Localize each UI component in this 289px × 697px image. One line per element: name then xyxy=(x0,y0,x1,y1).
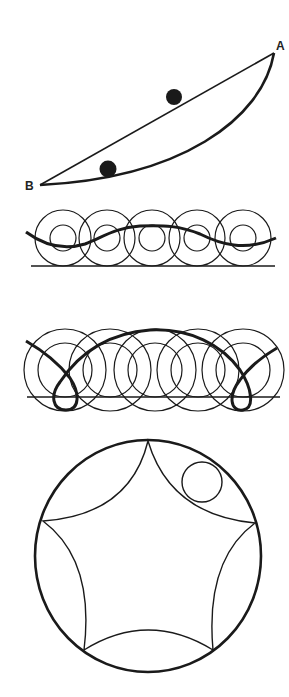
diagram-canvas: A B xyxy=(0,0,289,697)
ball-on-curve xyxy=(100,161,117,178)
rolling-circle xyxy=(182,462,222,502)
rolling-circles xyxy=(35,210,271,266)
curtate-cycloid-figure xyxy=(26,210,276,266)
ball-on-line xyxy=(166,89,182,105)
curtate-cycloid-curve xyxy=(26,226,276,247)
brachistochrone-figure: A B xyxy=(25,39,285,193)
prolate-cycloid-figure xyxy=(24,329,284,411)
label-b: B xyxy=(25,179,34,193)
hypocycloid-figure xyxy=(35,440,261,672)
label-a: A xyxy=(276,39,285,53)
hypocycloid-curve xyxy=(43,441,255,650)
